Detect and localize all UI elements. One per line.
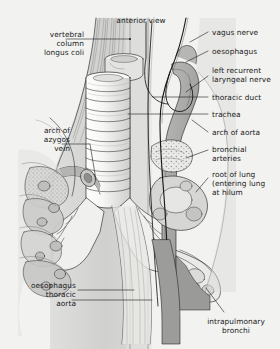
figure-title: anterior view [86,16,196,25]
label-left-recurrent-laryngeal-nerve: left recurrent laryngeal nerve [212,66,280,84]
label-bronchial-arteries: bronchial arteries [212,145,280,163]
figure-canvas: anterior view vertebral column longus co… [0,0,280,349]
label-oesophagus: oesophagus [212,47,280,56]
label-arch-of-aorta: arch of aorta [212,128,280,137]
label-root-of-lung: root of lung (entering lung at hilum [212,170,280,198]
label-thoracic-duct: thoracic duct [212,93,280,102]
label-vertebral-column-longus-coli: vertebral column longus coli [14,30,84,58]
label-oesophagus-thoracic-aorta: oesophagus thoracic aorta [2,281,76,309]
label-arch-of-azygos-vein: arch of azygos vein [4,126,70,154]
label-vagus-nerve: vagus nerve [212,28,280,37]
label-trachea: trachea [212,110,280,119]
label-intrapulmonary-bronchi: intrapulmonary bronchi [192,317,280,335]
trachea [86,72,130,208]
